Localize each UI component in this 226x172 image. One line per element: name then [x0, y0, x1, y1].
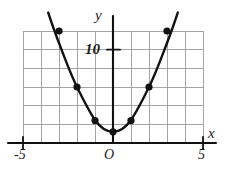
x-tick-label-neg5: -5 [14, 148, 26, 162]
graph-figure: y x 10 -5 O 5 [0, 0, 226, 172]
origin-label: O [104, 148, 114, 162]
data-point [163, 27, 170, 34]
x-axis-label: x [208, 126, 215, 141]
data-point [55, 27, 62, 34]
y-axis-label: y [95, 8, 102, 23]
data-point [91, 117, 98, 124]
data-point [145, 83, 152, 90]
data-point [127, 117, 134, 124]
y-tick-label-10: 10 [85, 42, 100, 57]
data-point [109, 128, 116, 135]
data-point [73, 83, 80, 90]
x-tick-label-pos5: 5 [198, 148, 205, 162]
